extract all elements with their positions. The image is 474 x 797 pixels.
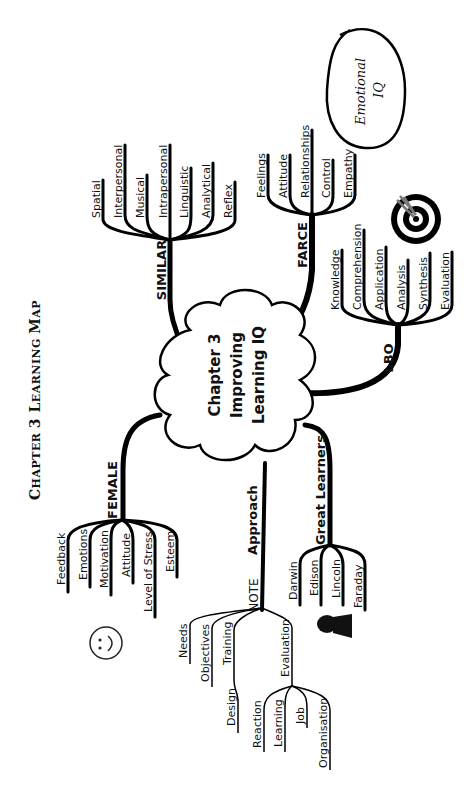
- lincoln-bust-icon: [317, 614, 352, 638]
- target-bullseye-icon: [391, 194, 441, 244]
- branch-great-learners[interactable]: Great Learners Darwin Edison Lincoln Far…: [287, 435, 365, 610]
- leaf-synthesis[interactable]: Synthesis: [417, 257, 430, 310]
- leaf-spatial[interactable]: Spatial: [90, 180, 103, 218]
- emotional-iq-bubble: Emotional IQ: [327, 29, 405, 148]
- branch-similar[interactable]: SIMILAR Spatial Interpersonal Musical In…: [90, 145, 235, 300]
- leaf-evaluation-lbo[interactable]: Evaluation: [439, 252, 452, 310]
- leaf-feelings[interactable]: Feelings: [255, 153, 268, 198]
- leaf-job[interactable]: Job: [294, 707, 307, 725]
- leaf-comprehension[interactable]: Comprehension: [351, 224, 364, 310]
- center-cloud: Chapter 3 Improving Learning IQ: [155, 290, 315, 460]
- branch-label-farce: FARCE: [295, 222, 310, 268]
- center-title-line2: Improving: [228, 332, 246, 418]
- note-label: NOTE: [247, 578, 261, 611]
- branch-farce[interactable]: FARCE Feelings Attitude Relationships Co…: [255, 124, 355, 267]
- leaf-lincoln[interactable]: Lincoln: [330, 559, 343, 598]
- branch-label-lbo: LBO: [381, 343, 396, 372]
- leaf-level-of-stress[interactable]: Level of Stress: [142, 531, 155, 612]
- smiley-face-icon: [90, 627, 122, 659]
- leaf-application[interactable]: Application: [373, 249, 386, 310]
- page-title: CHAPTER 3 LEARNING MAP: [27, 300, 43, 500]
- mind-map: CHAPTER 3 LEARNING MAP Chapter 3 Improvi…: [0, 0, 474, 797]
- leaf-intrapersonal[interactable]: Intrapersonal: [157, 145, 170, 218]
- branch-lbo[interactable]: LBO Knowledge Comprehension Application …: [329, 224, 452, 373]
- leaf-needs[interactable]: Needs: [177, 623, 190, 658]
- leaf-feedback[interactable]: Feedback: [55, 532, 68, 585]
- leaf-edison[interactable]: Edison: [308, 560, 321, 596]
- branch-label-approach: Approach: [245, 485, 260, 555]
- branch-label-similar: SIMILAR: [154, 240, 169, 300]
- leaf-emotions[interactable]: Emotions: [77, 529, 90, 580]
- leaf-linguistic[interactable]: Linguistic: [178, 166, 191, 218]
- leaf-faraday[interactable]: Faraday: [352, 564, 365, 608]
- leaf-esteem[interactable]: Esteem: [164, 531, 177, 572]
- leaf-organisation[interactable]: Organisation: [317, 698, 330, 768]
- leaf-attitude-farce[interactable]: Attitude: [277, 154, 290, 198]
- leaf-empathy[interactable]: Empathy: [342, 148, 355, 198]
- center-title-line3: Learning IQ: [250, 326, 268, 424]
- leaf-design[interactable]: Design: [225, 688, 238, 726]
- svg-text:CHAPTER 3 LEARNING MAP: CHAPTER 3 LEARNING MAP: [27, 300, 43, 500]
- leaf-attitude-female[interactable]: Attitude: [120, 533, 133, 577]
- branch-approach[interactable]: Approach NOTE Needs Objectives Training …: [177, 485, 330, 770]
- emotional-iq-line1: Emotional: [353, 58, 368, 126]
- center-title-line1: Chapter 3: [206, 334, 224, 417]
- leaf-knowledge[interactable]: Knowledge: [329, 249, 342, 310]
- similar-connector: [170, 240, 182, 345]
- evaluation-label[interactable]: Evaluation: [279, 619, 292, 677]
- leaf-interpersonal[interactable]: Interpersonal: [112, 145, 125, 218]
- leaf-analysis[interactable]: Analysis: [395, 264, 408, 310]
- leaf-reaction[interactable]: Reaction: [251, 700, 264, 748]
- branch-female[interactable]: FEMALE Feedback Emotions Motivation Atti…: [55, 461, 177, 617]
- leaf-training[interactable]: Training: [221, 622, 234, 666]
- leaf-darwin[interactable]: Darwin: [287, 561, 300, 600]
- leaf-control[interactable]: Control: [320, 158, 333, 198]
- leaf-analytical[interactable]: Analytical: [200, 164, 213, 218]
- approach-connector: [262, 463, 265, 610]
- leaf-reflex[interactable]: Reflex: [222, 184, 235, 218]
- branch-label-female: FEMALE: [105, 461, 120, 519]
- leaf-learning[interactable]: Learning: [272, 699, 285, 747]
- female-connector: [123, 415, 160, 518]
- emotional-iq-line2: IQ: [371, 82, 386, 99]
- leaf-musical[interactable]: Musical: [134, 177, 147, 218]
- branch-label-great-learners: Great Learners: [313, 435, 328, 545]
- leaf-relationships[interactable]: Relationships: [299, 124, 312, 198]
- leaf-objectives[interactable]: Objectives: [199, 624, 212, 682]
- leaf-motivation[interactable]: Motivation: [98, 530, 111, 588]
